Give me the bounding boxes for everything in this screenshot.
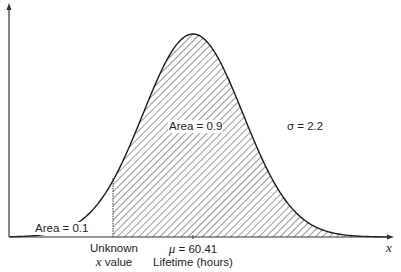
area-right-label: Area = 0.9 xyxy=(168,120,223,133)
mean-label: μ = 60.41 Lifetime (hours) xyxy=(143,242,243,269)
x-axis-title: Lifetime (hours) xyxy=(143,256,243,269)
area-left-label: Area = 0.1 xyxy=(34,222,89,235)
y-axis-arrow-icon xyxy=(7,3,12,10)
shaded-area-0-9 xyxy=(10,34,390,237)
sigma-label: σ = 2.2 xyxy=(287,120,323,133)
unknown-x-label: Unknown x value xyxy=(88,242,140,269)
x-axis-symbol: x xyxy=(386,241,392,254)
x-axis-arrow-icon xyxy=(387,235,394,240)
unknown-x-rest: value xyxy=(102,256,133,268)
sigma-value: = 2.2 xyxy=(294,120,323,132)
unknown-label-line2: x value xyxy=(88,255,140,269)
mean-value: = 60.41 xyxy=(175,243,217,255)
mean-value-label: μ = 60.41 xyxy=(143,242,243,256)
